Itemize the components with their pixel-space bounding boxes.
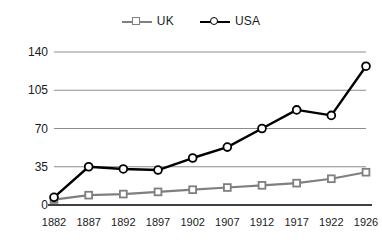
x-tick-label: 1902 (180, 216, 204, 228)
x-tick-label: 1882 (42, 216, 66, 228)
x-tick-label: 1892 (111, 216, 135, 228)
x-tick-label: 1887 (76, 216, 100, 228)
x-tick-label: 1917 (284, 216, 308, 228)
x-tick-label: 1926 (354, 216, 378, 228)
x-tick-label: 1907 (215, 216, 239, 228)
x-tick-label: 1912 (250, 216, 274, 228)
x-tick-label: 1922 (319, 216, 343, 228)
x-tick-label: 1897 (146, 216, 170, 228)
x-axis-labels: 1882188718921897190219071912191719221926 (0, 0, 382, 244)
line-chart: UK USA 03570105140 188218871892189719021… (0, 0, 382, 244)
